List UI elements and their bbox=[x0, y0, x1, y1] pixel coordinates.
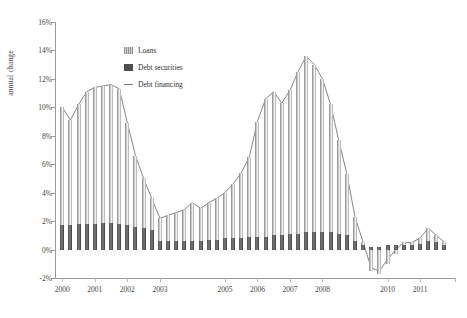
bar-segment-debt-securities bbox=[133, 227, 137, 250]
bar-fill bbox=[215, 240, 219, 250]
bar-fill bbox=[133, 227, 137, 250]
y-tick-label: 8% bbox=[18, 131, 52, 140]
bar-fill bbox=[280, 235, 284, 249]
bar-fill bbox=[101, 223, 105, 250]
bar-fill bbox=[386, 250, 390, 264]
bar-fill bbox=[410, 242, 414, 245]
bar-segment-debt-securities bbox=[418, 244, 422, 250]
bar-fill bbox=[133, 156, 137, 227]
x-tick-mark bbox=[322, 278, 323, 282]
bar-segment-loans bbox=[288, 90, 292, 234]
bar-segment-debt-securities bbox=[182, 241, 186, 250]
bar-segment-debt-securities bbox=[296, 234, 300, 250]
bar-segment-debt-securities bbox=[353, 241, 357, 250]
bar-fill bbox=[231, 238, 235, 249]
bar-fill bbox=[280, 103, 284, 235]
bar-fill bbox=[369, 250, 373, 271]
bar-fill bbox=[190, 241, 194, 250]
x-tick-label: 2002 bbox=[120, 285, 135, 294]
x-axis-line bbox=[55, 278, 455, 279]
bar-segment-loans-negative bbox=[369, 250, 373, 271]
bar-fill bbox=[158, 218, 162, 241]
y-tick-label: 10% bbox=[18, 103, 52, 112]
bar-fill bbox=[68, 120, 72, 225]
y-tick-label: 14% bbox=[18, 46, 52, 55]
bar-segment-loans bbox=[296, 72, 300, 234]
bar-segment-debt-securities bbox=[280, 235, 284, 249]
bar-fill bbox=[337, 140, 341, 234]
bar-segment-loans bbox=[101, 86, 105, 223]
bar-fill bbox=[247, 237, 251, 250]
bar-segment-debt-securities bbox=[426, 241, 430, 250]
bar-fill bbox=[142, 228, 146, 249]
x-tick-mark bbox=[225, 278, 226, 282]
legend-item-debt-securities: Debt securities bbox=[124, 61, 183, 74]
bar-segment-debt-securities bbox=[125, 225, 129, 249]
bar-segment-loans bbox=[264, 99, 268, 237]
y-tick-mark bbox=[51, 107, 55, 108]
bar-fill bbox=[337, 234, 341, 250]
x-tick-mark bbox=[62, 278, 63, 282]
bar-segment-loans bbox=[190, 203, 194, 241]
bar-fill bbox=[117, 89, 121, 224]
bar-segment-loans-negative bbox=[394, 250, 398, 254]
bar-segment-loans bbox=[402, 242, 406, 245]
bar-segment-loans bbox=[93, 87, 97, 224]
bar-segment-debt-securities bbox=[158, 241, 162, 250]
bar-fill bbox=[312, 232, 316, 249]
legend-label-loans: Loans bbox=[138, 46, 156, 55]
bar-segment-debt-securities bbox=[199, 241, 203, 250]
bar-segment-loans bbox=[345, 174, 349, 235]
bar-segment-loans bbox=[182, 210, 186, 241]
y-tick-mark bbox=[51, 50, 55, 51]
bar-segment-loans bbox=[353, 217, 357, 241]
loans-swatch-icon bbox=[124, 47, 133, 54]
legend-label-debt-securities: Debt securities bbox=[138, 63, 183, 72]
bar-segment-debt-securities bbox=[361, 245, 365, 249]
x-tick-label: 2006 bbox=[250, 285, 265, 294]
bar-fill bbox=[93, 224, 97, 250]
bar-fill bbox=[377, 250, 381, 274]
legend-label-debt-financing: Debt financing bbox=[138, 80, 183, 89]
bar-fill bbox=[60, 225, 64, 249]
bar-fill bbox=[329, 232, 333, 249]
chart-container: annual change 16%14%12%10%8%6%4%2%0%-2% … bbox=[0, 0, 467, 318]
y-tick-label: 16% bbox=[18, 18, 52, 27]
bar-segment-loans-negative bbox=[386, 250, 390, 264]
bar-fill bbox=[264, 99, 268, 237]
bar-segment-loans bbox=[329, 104, 333, 232]
bar-fill bbox=[60, 107, 64, 225]
bar-fill bbox=[239, 173, 243, 238]
bar-segment-debt-securities bbox=[312, 232, 316, 249]
bar-fill bbox=[158, 241, 162, 250]
bar-segment-debt-securities bbox=[231, 238, 235, 249]
bar-fill bbox=[142, 178, 146, 228]
bar-segment-loans bbox=[304, 56, 308, 232]
bar-fill bbox=[255, 237, 259, 250]
bar-segment-loans bbox=[77, 104, 81, 223]
x-tick-mark bbox=[160, 278, 161, 282]
y-tick-label: 2% bbox=[18, 217, 52, 226]
bar-fill bbox=[434, 235, 438, 242]
bar-segment-debt-securities bbox=[101, 223, 105, 250]
legend-item-loans: Loans bbox=[124, 44, 183, 57]
bar-fill bbox=[418, 244, 422, 250]
bar-segment-debt-securities bbox=[109, 223, 113, 250]
bar-fill bbox=[125, 123, 129, 225]
y-tick-mark bbox=[51, 164, 55, 165]
bar-segment-loans bbox=[231, 184, 235, 238]
y-axis-tick-labels: 16%14%12%10%8%6%4%2%0%-2% bbox=[14, 0, 52, 318]
chart-legend: Loans Debt securities Debt financing bbox=[124, 44, 183, 95]
bar-fill bbox=[426, 228, 430, 241]
bar-fill bbox=[434, 242, 438, 249]
bar-fill bbox=[402, 245, 406, 249]
bar-fill bbox=[361, 245, 365, 249]
bar-fill bbox=[199, 241, 203, 250]
bar-fill bbox=[207, 240, 211, 250]
bar-fill bbox=[109, 85, 113, 223]
bar-segment-debt-securities bbox=[223, 238, 227, 249]
x-tick-mark bbox=[290, 278, 291, 282]
bar-fill bbox=[125, 225, 129, 249]
bar-segment-loans bbox=[150, 198, 154, 229]
bar-fill bbox=[296, 72, 300, 234]
